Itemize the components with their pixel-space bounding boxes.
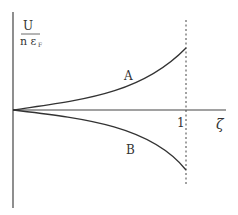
curve-b-label: B [126,143,135,157]
y-label-numerator: U [23,19,33,33]
x-axis-label: ζ [216,116,225,132]
curve-a [13,48,186,110]
y-label-subscript: F [38,41,42,48]
x-tick-1: 1 [177,116,185,130]
curve-b [13,110,186,170]
curve-a-label: A [123,69,133,83]
y-label-denominator: n ε [20,35,37,48]
diagram-canvas: U n ε F A B 1 ζ [0,0,238,215]
